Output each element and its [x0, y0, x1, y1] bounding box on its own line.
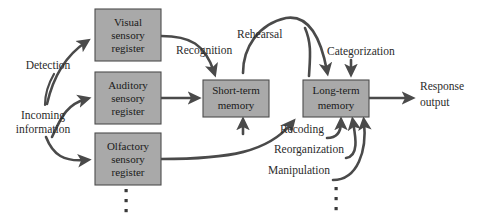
ltm-input-ellipsis-icon — [335, 187, 338, 210]
box-visual-line1: Visual — [114, 16, 142, 28]
arrow-olfactory-to-ltm — [161, 123, 292, 159]
label-manipulation: Manipulation — [268, 164, 330, 177]
box-short-term-memory[interactable]: Short-term memory — [203, 80, 269, 117]
box-auditory-sensory-register[interactable]: Auditory sensory register — [95, 72, 161, 124]
arrow-incoming-to-olfactory — [46, 137, 86, 160]
label-incoming-information-line1: Incoming — [21, 109, 65, 122]
box-auditory-line2: sensory — [111, 92, 145, 104]
arrow-incoming-to-visual — [47, 42, 86, 104]
box-visual-line3: register — [112, 42, 145, 54]
label-response-output-line1: Response — [420, 80, 464, 93]
box-stm-line2: memory — [218, 99, 255, 111]
box-visual-sensory-register[interactable]: Visual sensory register — [95, 9, 161, 61]
label-detection: Detection — [26, 59, 71, 71]
box-ltm-line2: memory — [318, 99, 355, 111]
label-rehearsal: Rehearsal — [237, 28, 282, 40]
box-stm-line1: Short-term — [212, 84, 260, 96]
box-visual-line2: sensory — [111, 29, 145, 41]
arrow-recoding-to-ltm — [327, 122, 341, 138]
box-olfactory-line2: sensory — [111, 153, 145, 165]
diagram-canvas: Visual sensory register Auditory sensory… — [0, 0, 487, 221]
memory-model-diagram: Visual sensory register Auditory sensory… — [0, 0, 487, 221]
box-olfactory-sensory-register[interactable]: Olfactory sensory register — [95, 133, 161, 185]
arrow-reorganization-to-ltm — [346, 122, 356, 158]
box-auditory-line3: register — [112, 105, 145, 117]
box-olfactory-line3: register — [112, 166, 145, 178]
box-long-term-memory[interactable]: Long-term memory — [303, 80, 369, 117]
label-categorization: Categorization — [327, 45, 395, 58]
label-recognition: Recognition — [176, 44, 232, 57]
box-olfactory-line1: Olfactory — [107, 140, 150, 152]
box-ltm-line1: Long-term — [312, 84, 359, 96]
label-recoding: Recoding — [280, 123, 324, 136]
arrow-rehearsal-stm-to-ltm — [243, 18, 327, 73]
label-incoming-information-line2: information — [16, 123, 71, 135]
box-auditory-line1: Auditory — [108, 79, 148, 91]
arrow-detection-connector — [45, 74, 54, 105]
label-reorganization: Reorganization — [274, 143, 344, 156]
arrow-rehearsal-return — [305, 28, 310, 76]
label-response-output-line2: output — [420, 96, 450, 109]
sensory-register-ellipsis-icon — [125, 189, 128, 212]
